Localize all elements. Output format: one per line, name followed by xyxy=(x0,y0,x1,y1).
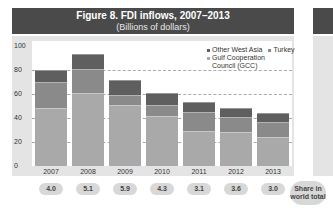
y-tick-label: 80 xyxy=(14,66,30,73)
bar-segment xyxy=(183,102,215,112)
bar-segment xyxy=(257,137,289,166)
x-axis-label: 2008 xyxy=(72,168,104,175)
bar-segment xyxy=(35,108,67,166)
y-tick-label: 60 xyxy=(14,90,30,97)
legend-label-turkey: Turkey xyxy=(273,46,294,54)
share-value-badge: 5.9 xyxy=(113,183,137,195)
legend-marker-gcc xyxy=(207,57,210,60)
share-value-badge: 5.1 xyxy=(76,183,100,195)
bar-segment xyxy=(257,122,289,138)
share-label-line2: world total xyxy=(290,193,326,201)
legend: Other West Asia Turkey Gulf Cooperation … xyxy=(207,46,295,70)
bar-2012 xyxy=(220,0,252,166)
share-value-badge: 3.1 xyxy=(187,183,211,195)
x-axis-label: 2009 xyxy=(109,168,141,175)
y-tick-label: 0 xyxy=(14,162,30,169)
bar-segment xyxy=(72,69,104,93)
share-value-badge: 4.3 xyxy=(150,183,174,195)
share-value-badge: 3.6 xyxy=(224,183,248,195)
x-axis-label: 2010 xyxy=(146,168,178,175)
bar-segment xyxy=(146,105,178,116)
bar-segment xyxy=(220,132,252,166)
share-value-badge: 3.0 xyxy=(261,183,285,195)
bar-segment xyxy=(146,93,178,105)
y-tick-label: 20 xyxy=(14,138,30,145)
bar-2009 xyxy=(109,0,141,166)
bar-segment xyxy=(72,54,104,68)
share-in-world-total-label: Share in world total xyxy=(290,181,326,205)
x-axis-label: 2012 xyxy=(220,168,252,175)
bar-segment xyxy=(109,105,141,166)
y-tick-label: 40 xyxy=(14,114,30,121)
bar-segment xyxy=(257,113,289,121)
adjacent-figure-panel xyxy=(313,36,333,176)
bar-segment xyxy=(109,95,141,105)
share-value-badge: 4.0 xyxy=(39,183,63,195)
bar-segment xyxy=(220,108,252,116)
bar-segment xyxy=(109,80,141,96)
legend-label-gcc-cont: Council (GCC) xyxy=(212,62,258,70)
bar-segment xyxy=(183,112,215,131)
legend-marker-other-west-asia xyxy=(207,49,210,52)
x-axis-label: 2007 xyxy=(35,168,67,175)
bar-2008 xyxy=(72,0,104,166)
legend-label-other-west-asia: Other West Asia xyxy=(212,46,262,54)
bar-segment xyxy=(220,117,252,133)
bar-2010 xyxy=(146,0,178,166)
bar-segment xyxy=(183,131,215,166)
bar-segment xyxy=(35,82,67,108)
bar-2011 xyxy=(183,0,215,166)
bar-2007 xyxy=(35,0,67,166)
legend-marker-turkey xyxy=(268,49,271,52)
bar-segment xyxy=(35,70,67,82)
x-axis-label: 2011 xyxy=(183,168,215,175)
share-label-line1: Share in xyxy=(290,185,326,193)
x-axis-label: 2013 xyxy=(257,168,289,175)
legend-label-gcc: Gulf Cooperation xyxy=(212,54,265,62)
bar-segment xyxy=(146,116,178,166)
adjacent-figure-title-bar xyxy=(313,8,333,34)
y-tick-label: 100 xyxy=(14,42,30,49)
bar-segment xyxy=(72,93,104,166)
bar-2013 xyxy=(257,0,289,166)
